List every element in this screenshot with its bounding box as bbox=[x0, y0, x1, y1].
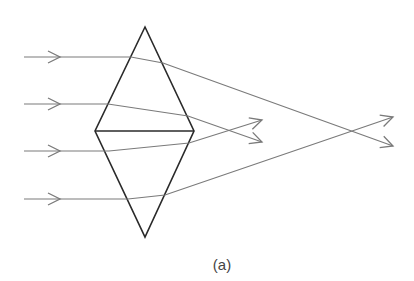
ray-path bbox=[24, 117, 393, 199]
figure-caption: (a) bbox=[202, 256, 242, 273]
ray-4 bbox=[24, 115, 393, 205]
ray-path bbox=[24, 120, 262, 151]
ray-2 bbox=[24, 98, 262, 144]
ray-path bbox=[24, 104, 262, 142]
double-prism-diagram bbox=[0, 0, 414, 281]
ray-1 bbox=[24, 51, 393, 148]
prism-outline bbox=[95, 27, 194, 237]
double-prism bbox=[95, 27, 194, 237]
light-rays bbox=[24, 51, 393, 205]
ray-3 bbox=[24, 118, 262, 157]
ray-path bbox=[24, 57, 393, 146]
